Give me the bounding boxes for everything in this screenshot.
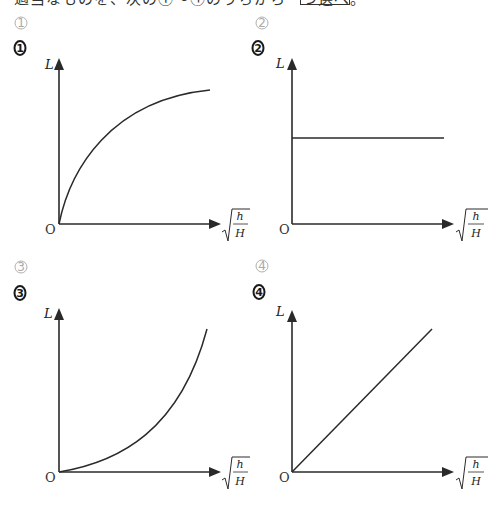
svg-text:H: H bbox=[234, 475, 245, 488]
svg-text:h: h bbox=[236, 210, 243, 223]
x-axis-arrow-icon bbox=[442, 219, 454, 229]
svg-text:h: h bbox=[472, 210, 479, 223]
x-axis-label: h H bbox=[456, 457, 488, 489]
option-1-graph: 1 1 L O h H bbox=[15, 16, 251, 241]
x-axis-label: h H bbox=[222, 457, 250, 489]
option-3-graph: 3 3 L O h H bbox=[15, 260, 251, 489]
option-1-curve bbox=[59, 90, 210, 224]
svg-text:3: 3 bbox=[17, 260, 25, 274]
option-3-light-number: 3 bbox=[15, 260, 27, 274]
svg-text:3: 3 bbox=[16, 287, 24, 300]
y-axis-arrow-icon bbox=[287, 58, 297, 70]
svg-text:4: 4 bbox=[255, 286, 263, 299]
svg-text:h: h bbox=[472, 458, 479, 471]
svg-text:H: H bbox=[470, 227, 481, 240]
origin-label: O bbox=[279, 470, 290, 485]
option-3-number-badge[interactable]: 3 bbox=[15, 286, 26, 300]
x-axis-arrow-icon bbox=[209, 467, 221, 477]
option-1-light-number: 1 bbox=[15, 16, 27, 30]
origin-label: O bbox=[45, 222, 56, 237]
svg-text:1: 1 bbox=[17, 16, 25, 30]
svg-text:H: H bbox=[234, 227, 245, 240]
y-axis-arrow-icon bbox=[287, 310, 297, 322]
x-axis-label: h H bbox=[222, 209, 250, 241]
option-4-graph: 4 4 L O h H bbox=[254, 259, 489, 489]
svg-text:2: 2 bbox=[254, 42, 262, 55]
option-4-light-number: 4 bbox=[256, 259, 268, 273]
option-3-curve bbox=[59, 329, 207, 472]
svg-text:h: h bbox=[236, 458, 243, 471]
option-1-number-badge[interactable]: 1 bbox=[15, 41, 26, 55]
svg-text:2: 2 bbox=[258, 16, 266, 30]
svg-text:H: H bbox=[470, 475, 481, 488]
x-axis-arrow-icon bbox=[209, 219, 221, 229]
y-axis-label: L bbox=[275, 304, 285, 319]
x-axis-arrow-icon bbox=[442, 467, 454, 477]
graph-options-diagram: 1 1 L O h H 2 2 L O bbox=[0, 0, 492, 507]
svg-text:1: 1 bbox=[16, 42, 24, 55]
y-axis-label: L bbox=[43, 306, 53, 321]
option-2-number-badge[interactable]: 2 bbox=[253, 41, 264, 55]
option-2-light-number: 2 bbox=[256, 16, 268, 30]
svg-text:4: 4 bbox=[258, 259, 266, 273]
origin-label: O bbox=[279, 222, 290, 237]
y-axis-arrow-icon bbox=[54, 308, 64, 320]
y-axis-label: L bbox=[44, 57, 54, 72]
x-axis-label: h H bbox=[456, 209, 488, 241]
y-axis-arrow-icon bbox=[54, 58, 64, 70]
option-4-curve bbox=[292, 329, 432, 472]
option-4-number-badge[interactable]: 4 bbox=[254, 285, 265, 299]
origin-label: O bbox=[45, 470, 56, 485]
y-axis-label: L bbox=[275, 56, 285, 71]
option-2-graph: 2 2 L O h H bbox=[253, 16, 489, 241]
